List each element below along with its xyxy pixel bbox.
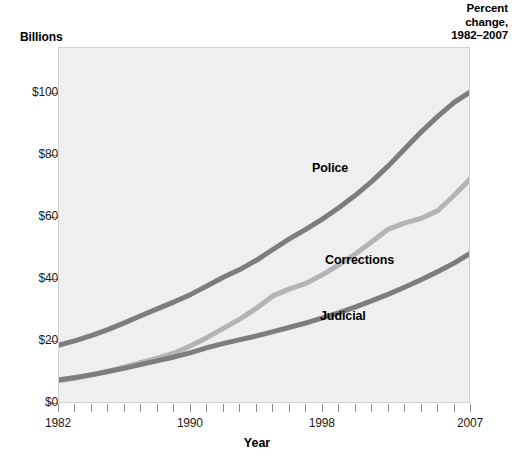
y-tick-label: $40	[14, 271, 58, 285]
series-label-corrections: Corrections	[325, 253, 394, 267]
x-tick-mark	[157, 404, 158, 412]
plot-area	[58, 47, 470, 403]
x-tick-label: 1998	[309, 416, 335, 430]
x-tick-mark	[404, 404, 405, 412]
x-tick-mark	[388, 404, 389, 412]
x-tick-mark	[206, 404, 207, 412]
x-axis-title: Year	[0, 436, 514, 450]
x-tick-mark	[140, 404, 141, 412]
x-tick-mark	[305, 404, 306, 412]
x-tick-mark	[355, 404, 356, 412]
series-canvas	[59, 48, 470, 403]
y-axis-units-label: Billions	[20, 30, 63, 44]
x-tick-label: 1982	[45, 416, 71, 430]
x-tick-mark	[173, 404, 174, 412]
x-tick-mark	[338, 404, 339, 412]
x-tick-label: 1990	[177, 416, 203, 430]
x-tick-mark	[437, 404, 438, 412]
x-tick-mark	[91, 404, 92, 412]
y-tick-label: $60	[14, 209, 58, 223]
series-line-police	[59, 91, 470, 345]
series-line-judicial	[59, 253, 470, 380]
x-tick-mark	[470, 404, 471, 412]
x-tick-mark	[371, 404, 372, 412]
x-tick-mark	[289, 404, 290, 412]
x-tick-mark	[58, 404, 59, 412]
x-tick-mark	[74, 404, 75, 412]
y-tick-label: $20	[14, 333, 58, 347]
x-tick-mark	[322, 404, 323, 412]
percent-change-header: Percent change, 1982–2007	[398, 2, 508, 43]
x-tick-mark	[190, 404, 191, 412]
percent-change-header-line-1: Percent	[398, 2, 508, 16]
x-tick-mark	[124, 404, 125, 412]
series-label-judicial: Judicial	[320, 309, 366, 323]
x-tick-mark	[256, 404, 257, 412]
x-tick-mark	[272, 404, 273, 412]
y-tick-label: $80	[14, 147, 58, 161]
x-tick-mark	[239, 404, 240, 412]
percent-change-header-line-3: 1982–2007	[398, 29, 508, 43]
x-tick-mark	[454, 404, 455, 412]
x-tick-mark	[421, 404, 422, 412]
series-label-police: Police	[312, 161, 348, 175]
x-tick-mark	[107, 404, 108, 412]
y-tick-label: $0	[14, 395, 58, 409]
y-tick-label: $100	[14, 85, 58, 99]
percent-change-header-line-2: change,	[398, 16, 508, 30]
chart-figure: Percent change, 1982–2007 Billions $0$20…	[0, 0, 514, 463]
x-tick-mark	[223, 404, 224, 412]
series-line-corrections	[59, 178, 470, 381]
x-tick-label: 2007	[457, 416, 483, 430]
